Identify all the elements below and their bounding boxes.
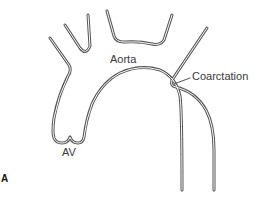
coarctation-label: Coarctation — [192, 71, 248, 82]
aortic-arch-drawing — [0, 0, 262, 201]
aortic-valve-label: AV — [62, 147, 76, 158]
aorta-label: Aorta — [110, 54, 136, 65]
vessel-walls — [50, 11, 214, 190]
coarctation-pointer — [174, 78, 190, 84]
branch-1 — [65, 15, 90, 52]
right-outer-wall — [172, 28, 215, 190]
panel-label: A — [1, 174, 8, 184]
